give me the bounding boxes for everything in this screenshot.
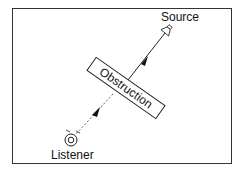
obstruction-diagram: Source Obstruction Listener xyxy=(0,0,241,173)
listener-label: Listener xyxy=(51,148,94,162)
source-label: Source xyxy=(161,10,199,24)
